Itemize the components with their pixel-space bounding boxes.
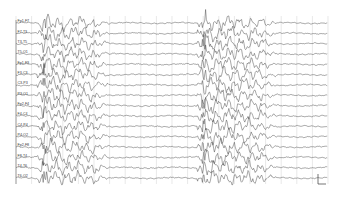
channel-label: T6-O2 xyxy=(18,174,28,178)
channel-label: C4-P4 xyxy=(18,123,28,127)
channel-label: T5-O1 xyxy=(18,50,28,54)
channel-label: P4-O2 xyxy=(18,133,28,137)
channel-label: T3-T5 xyxy=(18,40,28,44)
channel-label: F4-C4 xyxy=(18,112,28,116)
channel-label: T4-T6 xyxy=(18,164,28,168)
channel-label: Fp1-F7 xyxy=(18,19,30,23)
eeg-figure: Fp1-F7F7-T3T3-T5T5-O1Fp1-F3F3-C3C3-P3P3-… xyxy=(0,0,339,197)
channel-label: P3-O1 xyxy=(18,92,28,96)
channel-label: Fp1-F3 xyxy=(18,61,30,65)
calibration-scale-bar xyxy=(318,174,326,184)
channel-label: F3-C3 xyxy=(18,71,28,75)
time-gridlines xyxy=(16,16,328,184)
channel-label: F8-T4 xyxy=(18,154,28,158)
channel-label: Fp2-F8 xyxy=(18,143,30,147)
channel-label: C3-P3 xyxy=(18,81,28,85)
channel-label: Fp2-F4 xyxy=(18,102,30,106)
channel-label: F7-T3 xyxy=(18,30,28,34)
channel-labels: Fp1-F7F7-T3T3-T5T5-O1Fp1-F3F3-C3C3-P3P3-… xyxy=(18,19,30,178)
